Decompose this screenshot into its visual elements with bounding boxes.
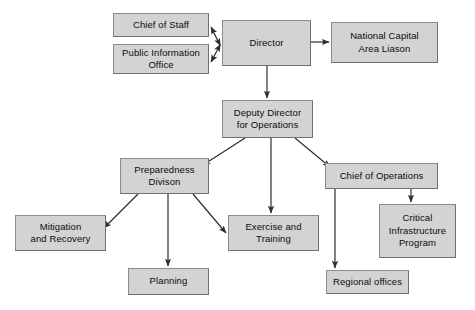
edge-preparedness-to-exercise xyxy=(193,194,226,233)
node-label-planning: Planning xyxy=(150,275,188,288)
node-mitigation-and-recovery: Mitigation and Recovery xyxy=(15,215,106,251)
node-label-mitigation-and-recovery: Mitigation and Recovery xyxy=(31,221,91,246)
node-preparedness-divison: Preparedness Divison xyxy=(120,158,209,194)
node-chief-of-staff: Chief of Staff xyxy=(113,13,209,37)
node-label-exercise-and-training: Exercise and Training xyxy=(245,221,301,246)
edge-director-to-public-information-office xyxy=(211,45,220,62)
node-critical-infrastructure-program: Critical Infrastructure Program xyxy=(379,204,456,258)
edge-preparedness-to-mitigation xyxy=(104,194,138,228)
node-label-preparedness-divison: Preparedness Divison xyxy=(134,164,194,189)
node-label-director: Director xyxy=(249,37,283,50)
node-national-capital-area-liason: National Capital Area Liason xyxy=(331,22,438,63)
node-exercise-and-training: Exercise and Training xyxy=(228,215,319,251)
node-label-deputy-director-for-operations: Deputy Director for Operations xyxy=(234,107,302,132)
node-chief-of-operations: Chief of Operations xyxy=(325,163,438,189)
node-label-national-capital-area-liason: National Capital Area Liason xyxy=(350,30,419,55)
node-label-chief-of-operations: Chief of Operations xyxy=(340,170,424,183)
node-label-public-information-office: Public Information Office xyxy=(122,47,200,72)
node-director: Director xyxy=(222,20,311,66)
node-label-critical-infrastructure-program: Critical Infrastructure Program xyxy=(389,212,446,250)
node-planning: Planning xyxy=(128,268,209,295)
node-label-regional-offices: Regional offices xyxy=(333,276,402,289)
node-label-chief-of-staff: Chief of Staff xyxy=(133,19,189,32)
node-regional-offices: Regional offices xyxy=(326,270,409,294)
node-deputy-director-for-operations: Deputy Director for Operations xyxy=(222,100,313,138)
node-public-information-office: Public Information Office xyxy=(113,44,209,74)
edge-director-to-chief-of-staff xyxy=(211,27,220,45)
edge-deputy-to-preparedness xyxy=(203,138,245,165)
org-chart-diagram: Chief of StaffPublic Information OfficeD… xyxy=(0,0,475,310)
